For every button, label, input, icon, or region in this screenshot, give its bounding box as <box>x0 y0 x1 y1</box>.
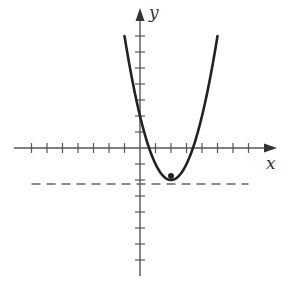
y-axis-label: y <box>148 2 159 22</box>
y-axis-arrow-icon <box>136 8 145 21</box>
parabola-curve <box>125 36 218 180</box>
x-axis-label: x <box>266 153 276 173</box>
axes <box>14 8 277 276</box>
focus-point <box>168 173 174 179</box>
x-axis-arrow-icon <box>264 144 277 153</box>
parabola-graph: y x <box>0 0 293 300</box>
